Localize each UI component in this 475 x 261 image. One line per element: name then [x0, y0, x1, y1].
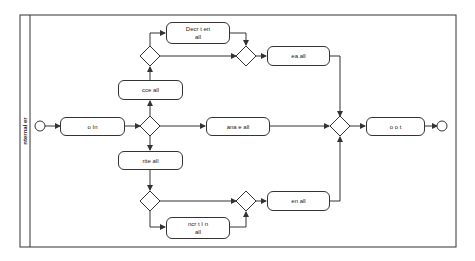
decision-lower — [140, 191, 160, 211]
lane-label-text: nternal er — [22, 117, 28, 144]
activity-label: ea all — [291, 52, 305, 60]
merge-final — [330, 116, 350, 136]
lane-label: nternal er — [20, 15, 30, 247]
decision-main — [140, 116, 160, 136]
activity-label: ana e all — [227, 123, 250, 131]
activity-access-mail[interactable]: cce all — [118, 80, 183, 100]
activity-label: o In — [87, 123, 97, 131]
activity-label: o o t — [390, 123, 402, 131]
activity-label: cce all — [142, 86, 159, 94]
activity-send-mail[interactable]: en all — [267, 191, 330, 211]
activity-logout[interactable]: o o t — [366, 117, 425, 136]
activity-label: ncr t I n all — [188, 220, 208, 236]
end-node — [437, 121, 447, 131]
activity-save-mail[interactable]: ea all — [267, 46, 330, 66]
activity-write-mail[interactable]: rite all — [118, 151, 183, 170]
start-node — [35, 121, 45, 131]
activity-label: en all — [291, 197, 305, 205]
activity-encrypt-mail[interactable]: ncr t I n all — [166, 217, 230, 239]
activity-label: rite all — [142, 157, 158, 165]
decision-upper — [140, 46, 160, 66]
activity-login[interactable]: o In — [60, 117, 125, 136]
merge-upper — [236, 46, 256, 66]
merge-lower — [236, 191, 256, 211]
activity-label: Decr t eri all — [186, 25, 210, 41]
activity-decorate-mail[interactable]: Decr t eri all — [166, 22, 230, 44]
activity-manage-mail[interactable]: ana e all — [206, 117, 270, 136]
